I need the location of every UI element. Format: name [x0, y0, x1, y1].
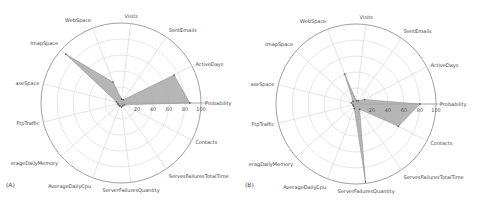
data-polygon [66, 54, 190, 107]
data-point [355, 100, 357, 102]
data-point [353, 105, 355, 107]
axis-spoke [278, 104, 356, 123]
radial-tick-label: 20 [134, 106, 140, 112]
axis-spoke [356, 67, 427, 104]
axis-label: erageDailyMemory [11, 160, 58, 167]
data-point [122, 99, 124, 101]
axis-label: WebSpace [300, 18, 326, 25]
axis-label: Probability [440, 101, 466, 108]
axis-label: Contacts [430, 140, 452, 146]
radial-tick-label: 100 [431, 107, 441, 113]
radial-tick-label: 20 [369, 107, 375, 113]
data-point [119, 105, 121, 107]
panel-label-a: (A) [6, 181, 15, 188]
radar-chart-b: 20406080100ProbabilityActiveDaysSentEmai… [239, 0, 478, 209]
data-point [121, 106, 123, 108]
axis-label: ActiveDays [430, 62, 458, 69]
axis-label: aseSpace [15, 80, 39, 87]
data-point [419, 103, 421, 105]
data-point [124, 104, 126, 106]
data-point [65, 53, 67, 55]
axis-spoke [61, 103, 121, 156]
data-point [365, 181, 367, 183]
panel-label-b: (B) [245, 181, 254, 188]
data-point [353, 108, 355, 110]
axis-label: eragDailyMemory [249, 161, 293, 168]
radar-plot-b: 20406080100ProbabilityActiveDaysSentEmai… [239, 0, 478, 209]
axis-label: ServesFailuresTotalTime [404, 174, 464, 180]
radar-plot-a: 20406080100ProbabilityActiveDaysSentEmai… [0, 0, 239, 209]
radial-tick-label: 40 [150, 106, 156, 112]
data-point [344, 73, 346, 75]
axis-label: Probability [205, 100, 231, 107]
axis-label: FtpTraffic [251, 121, 274, 128]
axis-label: aseSpace [250, 81, 274, 88]
data-point [359, 108, 361, 110]
axis-label: ServerFailuresQuantity [103, 187, 160, 194]
data-point [352, 100, 354, 102]
axis-spoke [278, 85, 356, 104]
radial-tick-label: 80 [417, 107, 423, 113]
data-point [398, 125, 400, 127]
data-point [173, 74, 175, 76]
axis-label: ImapSpace [30, 40, 58, 47]
axis-label: ServesFailuresTotalTime [169, 173, 229, 179]
data-point [357, 100, 359, 102]
radial-tick-label: 60 [166, 106, 172, 112]
axis-label: FtpTraffic [16, 120, 39, 127]
data-point [122, 105, 124, 107]
data-point [350, 102, 352, 104]
axis-spoke [43, 103, 121, 122]
axis-label: SentEmails [404, 28, 432, 34]
axis-label: SentEmails [169, 27, 197, 33]
axis-label: AverageDailyCpu [283, 184, 326, 191]
radial-tick-label: 60 [401, 107, 407, 113]
radar-chart-a: 20406080100ProbabilityActiveDaysSentEmai… [0, 0, 239, 209]
axis-label: ActiveDays [195, 61, 223, 68]
axis-spoke [296, 51, 356, 104]
axis-spoke [296, 104, 356, 157]
axis-label: Contacts [195, 139, 217, 145]
data-point [364, 99, 366, 101]
axis-label: WebSpace [65, 17, 91, 24]
radial-tick-label: 80 [182, 106, 188, 112]
data-point [115, 101, 117, 103]
axis-label: ImapSpace [265, 41, 293, 48]
data-point [121, 98, 123, 100]
axis-label: Visits [359, 14, 373, 20]
axis-label: AverageDailyCpu [48, 183, 91, 190]
axis-label: Visits [124, 13, 138, 19]
radial-tick-label: 100 [196, 106, 206, 112]
axis-label: ServerFailuresQuantity [338, 188, 395, 195]
data-point [189, 102, 191, 104]
radial-tick-label: 40 [385, 107, 391, 113]
data-point [112, 81, 114, 83]
